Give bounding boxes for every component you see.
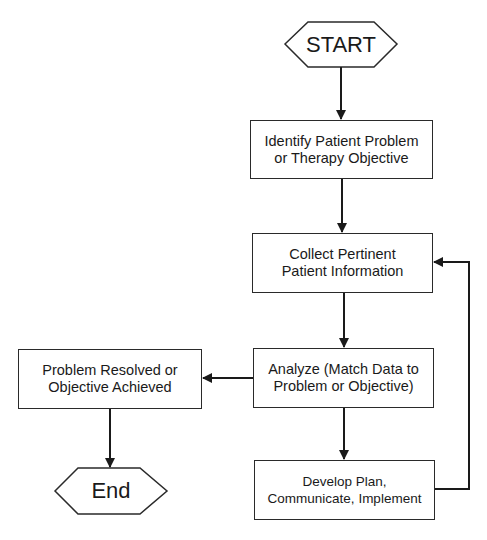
end-node: End bbox=[55, 468, 167, 514]
resolved-label-line2: Objective Achieved bbox=[42, 379, 177, 396]
arrow-develop-to-collect bbox=[434, 262, 469, 489]
resolved-label-line1: Problem Resolved or bbox=[42, 362, 177, 379]
analyze-label-line1: Analyze (Match Data to bbox=[268, 361, 419, 378]
collect-label-line2: Patient Information bbox=[282, 263, 404, 280]
collect-label-line1: Collect Pertinent bbox=[282, 246, 404, 263]
identify-label-line1: Identify Patient Problem bbox=[265, 133, 419, 150]
identify-node: Identify Patient Problem or Therapy Obje… bbox=[250, 120, 433, 179]
develop-label-line2: Communicate, Implement bbox=[268, 490, 422, 507]
start-label: START bbox=[306, 32, 376, 58]
analyze-label-line2: Problem or Objective) bbox=[268, 378, 419, 395]
develop-label-line1: Develop Plan, bbox=[268, 473, 422, 490]
start-node: START bbox=[285, 22, 397, 67]
develop-node: Develop Plan, Communicate, Implement bbox=[254, 460, 435, 520]
resolved-node: Problem Resolved or Objective Achieved bbox=[18, 349, 202, 409]
end-label: End bbox=[91, 478, 130, 504]
collect-node: Collect Pertinent Patient Information bbox=[252, 233, 433, 293]
identify-label-line2: or Therapy Objective bbox=[265, 150, 419, 167]
analyze-node: Analyze (Match Data to Problem or Object… bbox=[253, 348, 434, 408]
